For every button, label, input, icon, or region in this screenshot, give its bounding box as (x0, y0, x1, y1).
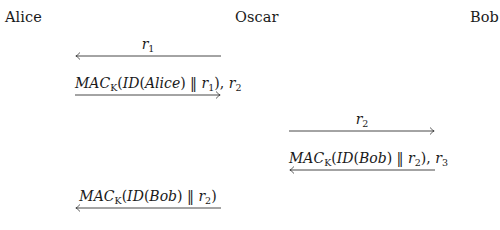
arrow-left-icon (75, 51, 221, 61)
message-label: MACK(ID(Bob) ‖ r2) (75, 188, 221, 204)
message-mac-alice: MACK(ID(Alice) ‖ r1), r2 (75, 75, 221, 95)
party-oscar: Oscar (235, 9, 279, 25)
arrow-left (289, 165, 435, 175)
message-label: MACK(ID(Bob) ‖ r2), r3 (289, 150, 435, 166)
arrow-right-icon (75, 90, 221, 100)
message-r1: r1 (75, 36, 221, 56)
arrow-left (75, 203, 221, 213)
message-label: r1 (75, 36, 221, 52)
message-mac-bob: MACK(ID(Bob) ‖ r2), r3 (289, 150, 435, 170)
message-label: MACK(ID(Alice) ‖ r1), r2 (75, 75, 221, 91)
message-mac-bob-forwarded: MACK(ID(Bob) ‖ r2) (75, 188, 221, 208)
arrow-left-icon (75, 203, 221, 213)
party-alice: Alice (5, 9, 42, 25)
arrow-right (289, 126, 435, 136)
message-label: r2 (289, 111, 435, 127)
arrow-left-icon (289, 165, 435, 175)
arrow-left (75, 51, 221, 61)
arrow-right-icon (289, 126, 435, 136)
arrow-right (75, 90, 221, 100)
message-r2: r2 (289, 111, 435, 131)
party-bob: Bob (470, 9, 499, 25)
